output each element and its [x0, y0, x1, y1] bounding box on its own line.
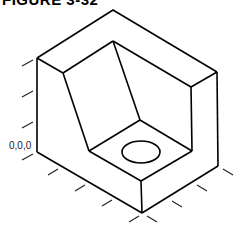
block-outline	[37, 10, 218, 213]
isometric-drawing	[0, 0, 245, 232]
hole-ellipse	[122, 141, 160, 163]
origin-label: 0,0,0	[9, 140, 31, 151]
